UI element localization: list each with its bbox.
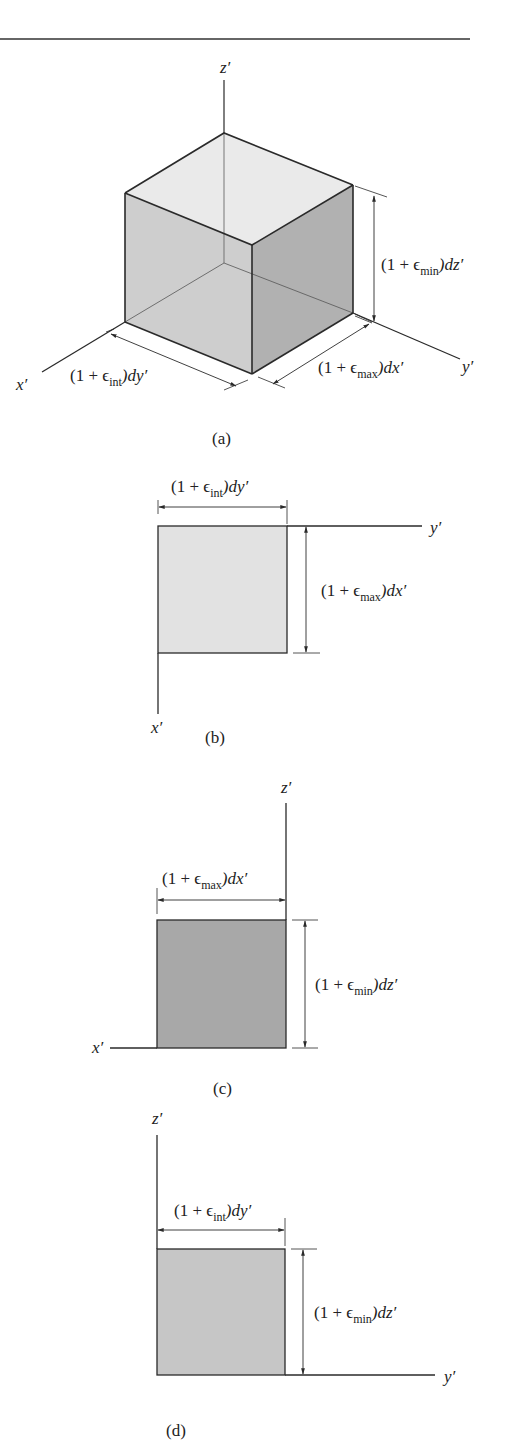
panel-b-side-label: (1 + ϵmax)dx′: [321, 581, 407, 604]
panel-a-z-label: z′: [219, 58, 231, 77]
panel-c-square: [157, 920, 286, 1048]
panel-a-caption: (a): [212, 429, 231, 448]
panel-d-caption: (d): [166, 1421, 186, 1440]
panel-d-h-axis-label: y′: [442, 1367, 456, 1386]
panel-d-side-label: (1 + ϵmin)dz′: [314, 1303, 397, 1326]
panel-c-side-label: (1 + ϵmin)dz′: [315, 975, 398, 998]
panel-b-top-label: (1 + ϵint)dy′: [171, 477, 249, 500]
y-axis-line: [353, 313, 460, 359]
panel-c-face: [110, 803, 318, 1048]
panel-b-square: [158, 526, 287, 653]
panel-c-top-label: (1 + ϵmax)dx′: [162, 869, 248, 892]
panel-a-dx-label: (1 + ϵmax)dx′: [318, 358, 404, 381]
panel-a-dz-label: (1 + ϵmin)dz′: [381, 255, 464, 278]
panel-b-face: [158, 500, 422, 714]
panel-a-y-label: y′: [460, 357, 474, 376]
panel-d-face: [157, 1135, 435, 1375]
panel-d-v-axis-label: z′: [151, 1109, 163, 1128]
panel-a-dy-label: (1 + ϵint)dy′: [70, 366, 148, 389]
strain-cube-figure: z′ x′ y′ (1 + ϵmin)dz′ (1 + ϵint)dy′ (1 …: [0, 0, 508, 1441]
panel-c-v-axis-label: z′: [280, 778, 292, 797]
panel-b-v-axis-label: x′: [150, 718, 163, 737]
panel-d-top-label: (1 + ϵint)dy′: [174, 1201, 252, 1224]
panel-c-caption: (c): [213, 1079, 232, 1098]
panel-a-cube: [42, 80, 460, 390]
panel-b-caption: (b): [205, 728, 225, 747]
panel-d-square: [157, 1249, 285, 1375]
panel-a-x-label: x′: [15, 375, 28, 394]
panel-b-h-axis-label: y′: [428, 518, 442, 537]
panel-c-h-axis-label: x′: [91, 1038, 104, 1057]
